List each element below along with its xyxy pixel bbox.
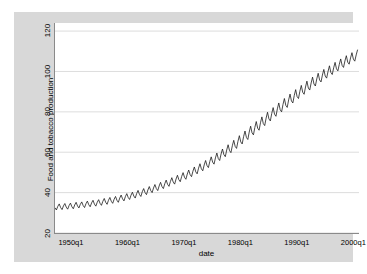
x-tick-label: 1990q1 [267,238,327,247]
x-tick-label: 1950q1 [41,238,101,247]
data-series-line [55,50,358,210]
y-tick-label: 80 [43,102,52,122]
y-axis-tick-labels: 20406080100120 [47,23,48,234]
y-tick-label: 60 [43,142,52,162]
gridlines [55,31,359,233]
y-tick-label: 40 [43,183,52,203]
x-tick-label: 1970q1 [154,238,214,247]
x-tick-label: 1980q1 [210,238,270,247]
x-tick-label: 1960q1 [97,238,157,247]
y-tick-label: 120 [43,21,52,41]
x-tick-label: 2000q1 [323,238,367,247]
screenshot-root: Food and tobacco production 204060801001… [0,0,367,274]
stata-graph-canvas: Food and tobacco production 204060801001… [14,12,353,262]
y-tick-label: 100 [43,61,52,81]
chart-plot-svg [55,23,359,233]
x-axis-title: date [54,249,359,258]
plot-region [54,23,359,234]
